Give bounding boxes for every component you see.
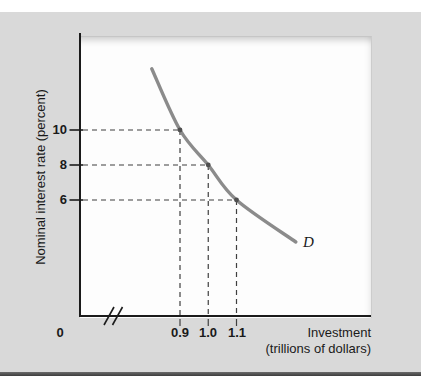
y-tick-label-8: 8: [37, 157, 67, 173]
x-axis-title-line1: Investment: [240, 325, 371, 341]
x-axis-title: Investment (trillions of dollars): [240, 325, 371, 357]
demand-curve: [152, 69, 296, 242]
y-tick-label-6: 6: [37, 192, 67, 208]
x-axis-title-line2: (trillions of dollars): [240, 341, 371, 357]
bottom-rule: [0, 372, 421, 376]
y-tick-label-10: 10: [37, 122, 67, 138]
data-point-1-8: [206, 163, 211, 168]
origin-label: 0: [46, 325, 74, 341]
curve-label: D: [303, 234, 314, 250]
data-point-1.1-6: [234, 198, 239, 203]
data-point-0.9-10: [178, 128, 183, 133]
figure: Nominal interest rate (percent) 10 8 6 0…: [0, 0, 421, 386]
y-axis-title: Nominal interest rate (percent): [33, 47, 49, 307]
